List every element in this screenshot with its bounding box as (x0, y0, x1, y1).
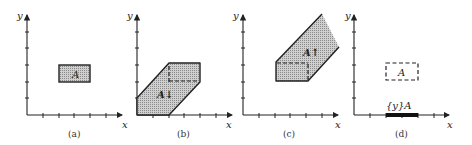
x-axis-label: x (447, 119, 453, 130)
y-axis-label: y (344, 10, 351, 21)
x-axis-label-left: x (122, 119, 128, 130)
y-axis-label: y (232, 10, 239, 21)
figure: A y (a) x (0, 0, 472, 145)
panel-a: A y (a) (16, 10, 122, 139)
panel-c: x A↑ (226, 10, 339, 139)
projection-label: {y}A (386, 100, 412, 111)
region-label: A↓ (156, 89, 173, 100)
caption: (d) (395, 129, 408, 139)
x-axis-label-left: x (226, 119, 232, 130)
region-label: A (71, 69, 79, 80)
caption: (c) (283, 129, 295, 139)
caption: (a) (68, 129, 80, 139)
region-label: A↑ (302, 47, 319, 58)
x-axis-label-left: x (335, 119, 341, 130)
caption: (b) (177, 129, 190, 139)
projection-bar (386, 113, 418, 117)
panel-d: x A {y}A y x (d) (335, 10, 453, 139)
panel-b: x A↓ y (b) (122, 10, 232, 139)
y-axis-label: y (16, 10, 23, 21)
region-label: A (397, 67, 405, 78)
y-axis-label: y (126, 10, 133, 21)
